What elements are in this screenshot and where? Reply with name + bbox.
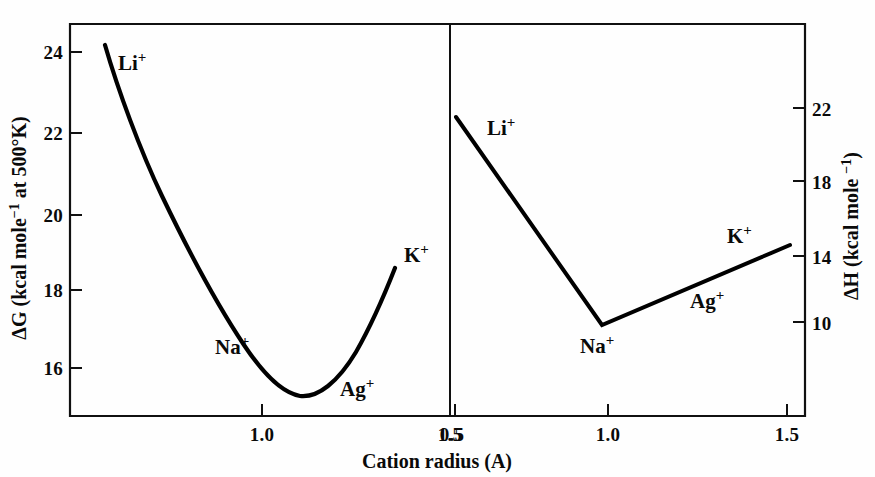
right-y-title-prefix: ΔH (kcal mole <box>840 174 863 300</box>
left-ytick-label-20: 20 <box>44 205 63 226</box>
left-label-li: Li+ <box>118 49 146 75</box>
right-xtick-label-1p0: 1.0 <box>596 424 620 445</box>
left-y-axis-title: ΔG (kcal mole−1 at 500°K) <box>7 116 31 339</box>
right-ytick-label-14: 14 <box>812 247 832 268</box>
right-x-axis-ticks <box>455 404 787 416</box>
figure-container: 24 22 20 18 16 ΔG (kcal mole−1 at 500°K)… <box>0 0 875 477</box>
left-x-axis-tick-labels: 1.0 1.5 <box>250 424 462 445</box>
left-label-ag: Ag+ <box>340 375 374 401</box>
chart-svg: 24 22 20 18 16 ΔG (kcal mole−1 at 500°K)… <box>0 0 875 477</box>
x-axis-title: Cation radius (A) <box>362 450 512 473</box>
right-label-ag: Ag+ <box>690 287 724 313</box>
right-y-title-sup: −1 <box>839 159 854 174</box>
left-xtick-label-1p0: 1.0 <box>250 424 274 445</box>
left-label-na: Na+ <box>215 333 249 359</box>
right-x-axis-tick-labels: 0.5 1.0 1.5 <box>440 424 799 445</box>
right-panel-ion-labels: Li+ Na+ Ag+ K+ <box>487 114 752 358</box>
right-xtick-label-1p5: 1.5 <box>775 424 799 445</box>
svg-text:ΔH (kcal mole −1): ΔH (kcal mole −1) <box>839 152 863 300</box>
left-label-k: K+ <box>404 241 429 267</box>
right-label-na: Na+ <box>580 332 614 358</box>
right-label-k: K+ <box>727 222 752 248</box>
left-y-axis-tick-labels: 24 22 20 18 16 <box>44 42 64 379</box>
left-x-axis-ticks <box>262 404 450 416</box>
left-ytick-label-24: 24 <box>44 42 64 63</box>
left-ytick-label-16: 16 <box>44 358 63 379</box>
right-y-axis-tick-labels: 22 18 14 10 <box>812 99 832 334</box>
left-ytick-label-18: 18 <box>44 280 63 301</box>
svg-text:ΔG (kcal mole−1 at 500°K): ΔG (kcal mole−1 at 500°K) <box>7 116 31 339</box>
left-y-axis-ticks <box>70 52 82 368</box>
right-y-title-suffix: ) <box>840 152 863 159</box>
left-y-title-prefix: ΔG (kcal mole <box>8 218 31 340</box>
left-ytick-label-22: 22 <box>44 123 63 144</box>
delta-g-curve <box>105 45 395 396</box>
right-y-axis-title: ΔH (kcal mole −1) <box>839 152 863 300</box>
right-label-li: Li+ <box>487 114 515 140</box>
left-panel-ion-labels: Li+ Na+ Ag+ K+ <box>118 49 429 401</box>
chart-frame <box>70 24 805 416</box>
right-ytick-label-10: 10 <box>812 313 831 334</box>
right-ytick-label-22: 22 <box>812 99 831 120</box>
right-ytick-label-18: 18 <box>812 172 831 193</box>
left-y-title-sup: −1 <box>7 203 22 218</box>
delta-h-polyline <box>456 117 790 325</box>
plot-border <box>70 24 805 416</box>
right-y-axis-ticks <box>793 108 805 322</box>
left-y-title-suffix: at 500°K) <box>8 116 31 203</box>
right-xtick-label-0p5: 0.5 <box>440 424 464 445</box>
